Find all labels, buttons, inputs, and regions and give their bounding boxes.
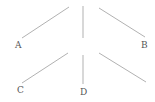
label-b: B	[141, 41, 148, 50]
line-b	[99, 8, 145, 37]
label-c: C	[17, 86, 24, 95]
line-a	[22, 7, 69, 38]
line-c	[22, 53, 68, 83]
label-d: D	[80, 88, 87, 97]
line-bottom-right	[99, 53, 146, 82]
label-a: A	[15, 41, 22, 50]
